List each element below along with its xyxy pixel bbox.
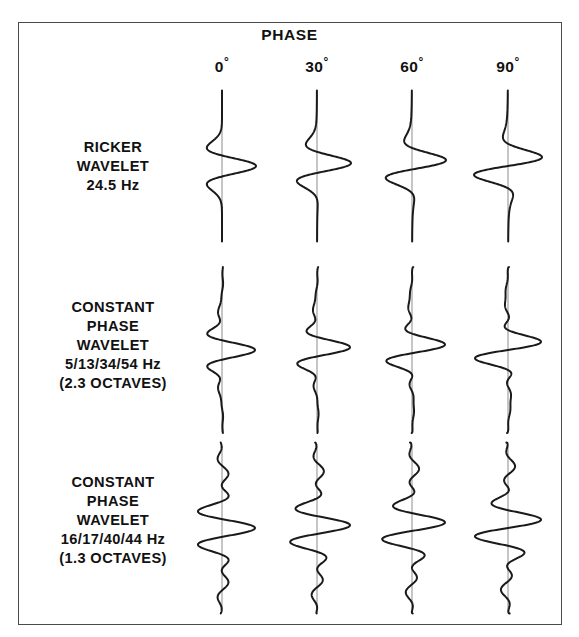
row-label-line: CONSTANT <box>28 473 198 492</box>
row-label-line: CONSTANT <box>28 298 198 317</box>
column-label-phase-60: 60° <box>367 58 457 76</box>
page-title: PHASE <box>0 26 579 44</box>
column-label-value: 90 <box>496 58 514 75</box>
row-label-constant-phase-wavelet-1-3-octaves: CONSTANTPHASEWAVELET16/17/40/44 Hz(1.3 O… <box>28 473 198 568</box>
row-label-line: 16/17/40/44 Hz <box>28 530 198 549</box>
row-label-line: WAVELET <box>28 511 198 530</box>
degree-symbol-icon: ° <box>323 55 328 69</box>
row-label-line: (2.3 OCTAVES) <box>28 374 198 393</box>
degree-symbol-icon: ° <box>418 55 423 69</box>
row-label-line: RICKER <box>28 138 198 157</box>
wavelet-phase-figure: PHASE 0°30°60°90° RICKERWAVELET24.5 HzCO… <box>0 0 579 637</box>
degree-symbol-icon: ° <box>224 55 229 69</box>
column-label-value: 60 <box>400 58 418 75</box>
column-label-phase-0: 0° <box>177 58 267 76</box>
column-label-phase-90: 90° <box>463 58 553 76</box>
row-label-line: 24.5 Hz <box>28 176 198 195</box>
row-label-line: 5/13/34/54 Hz <box>28 355 198 374</box>
column-label-phase-30: 30° <box>272 58 362 76</box>
degree-symbol-icon: ° <box>514 55 519 69</box>
row-label-ricker-wavelet: RICKERWAVELET24.5 Hz <box>28 138 198 195</box>
row-label-line: PHASE <box>28 317 198 336</box>
row-label-line: WAVELET <box>28 336 198 355</box>
row-label-line: WAVELET <box>28 157 198 176</box>
column-label-value: 0 <box>215 58 224 75</box>
column-label-value: 30 <box>305 58 323 75</box>
row-label-line: (1.3 OCTAVES) <box>28 549 198 568</box>
row-label-constant-phase-wavelet-2-3-octaves: CONSTANTPHASEWAVELET5/13/34/54 Hz(2.3 OC… <box>28 298 198 393</box>
row-label-line: PHASE <box>28 492 198 511</box>
